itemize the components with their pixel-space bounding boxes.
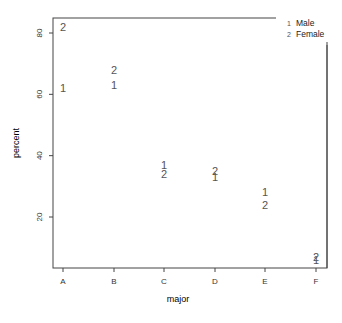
y-tick-label: 60 (35, 89, 44, 98)
legend-symbol-male: 1 (287, 20, 291, 27)
data-point-male: 1 (262, 186, 268, 198)
data-point-male: 1 (60, 82, 66, 94)
y-tick-label: 20 (35, 212, 44, 221)
data-point-female: 2 (161, 168, 167, 180)
x-axis-label: major (167, 294, 190, 304)
data-points: 111111222222 (60, 21, 319, 266)
x-tick-label: B (111, 277, 116, 286)
y-axis-label: percent (11, 127, 21, 158)
data-point-male: 1 (111, 79, 117, 91)
legend-label-male: Male (296, 18, 315, 28)
x-tick-label: A (60, 277, 66, 286)
y-tick-label: 80 (35, 28, 44, 37)
x-tick-label: F (314, 277, 319, 286)
x-tick-label: E (262, 277, 267, 286)
data-point-female: 2 (212, 165, 218, 177)
data-point-female: 2 (60, 21, 66, 33)
x-tick-label: C (161, 277, 167, 286)
legend-label-female: Female (296, 29, 325, 39)
legend: 1 Male 2 Female (276, 16, 340, 42)
x-axis: ABCDEF (60, 268, 318, 286)
data-point-female: 2 (313, 251, 319, 263)
scatter-chart: 20406080 ABCDEF 111111222222 major perce… (0, 0, 342, 323)
legend-symbol-female: 2 (287, 31, 291, 38)
data-point-female: 2 (111, 64, 117, 76)
x-tick-label: D (212, 277, 218, 286)
plot-border (53, 18, 327, 268)
y-tick-label: 40 (35, 151, 44, 160)
data-point-female: 2 (262, 199, 268, 211)
y-axis: 20406080 (35, 28, 53, 221)
